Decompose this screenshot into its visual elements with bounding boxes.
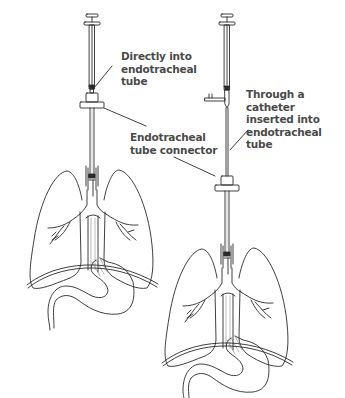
label-directly-into-et-tube: Directly into endotracheal tube: [121, 50, 197, 88]
stomach-right-icon: [183, 336, 269, 398]
leader-connector-left: [104, 108, 146, 126]
et-tube-left-icon: [86, 108, 98, 196]
tube-connector-right-icon: [215, 176, 239, 191]
label-et-tube-connector: Endotracheal tube connector: [130, 131, 217, 156]
diagram-canvas: Directly into endotracheal tube Endotrac…: [0, 0, 345, 398]
tube-connector-left-icon: [80, 93, 104, 108]
diaphragm-left-icon: [27, 265, 158, 288]
et-tube-right-icon: [221, 191, 233, 274]
label-through-catheter: Through a catheter inserted into endotra…: [246, 88, 345, 151]
syringe-right-icon: [205, 14, 235, 108]
leader-directly: [94, 66, 112, 88]
diaphragm-right-icon: [162, 343, 293, 366]
leader-connector-right: [174, 157, 215, 176]
catheter-icon: [226, 108, 228, 176]
syringe-left-icon: [84, 14, 100, 93]
